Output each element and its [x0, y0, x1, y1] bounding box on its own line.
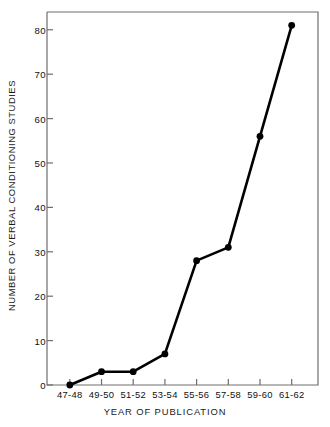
x-axis-tick-label: 59-60: [247, 389, 272, 400]
x-axis-tick-label: 51-52: [120, 389, 145, 400]
plot-area: [0, 0, 330, 427]
data-point-marker: [130, 368, 137, 375]
data-point-marker: [162, 351, 169, 358]
data-point-marker: [193, 257, 200, 264]
x-axis-tick-label: 53-54: [152, 389, 177, 400]
data-point-marker: [66, 382, 73, 389]
x-axis-tick-labels: 47-4849-5051-5253-5455-5657-5859-6061-62: [0, 389, 330, 405]
x-axis-tick-marks: [70, 379, 292, 385]
x-axis-tick-label: 55-56: [184, 389, 209, 400]
data-point-marker: [257, 133, 264, 140]
x-axis-tick-label: 49-50: [89, 389, 114, 400]
x-axis-title: YEAR OF PUBLICATION: [0, 406, 330, 417]
y-axis-tick-marks: [47, 30, 53, 385]
line-chart: NUMBER OF VERBAL CONDITIONING STUDIES 01…: [0, 0, 330, 427]
x-axis-tick-label: 57-58: [216, 389, 241, 400]
data-point-marker: [288, 22, 295, 29]
x-axis-tick-label: 47-48: [57, 389, 82, 400]
data-point-markers: [66, 22, 295, 388]
data-point-marker: [225, 244, 232, 251]
data-series-line: [70, 25, 292, 385]
plot-frame: [47, 12, 318, 385]
x-axis-tick-label: 61-62: [279, 389, 304, 400]
data-point-marker: [98, 368, 105, 375]
